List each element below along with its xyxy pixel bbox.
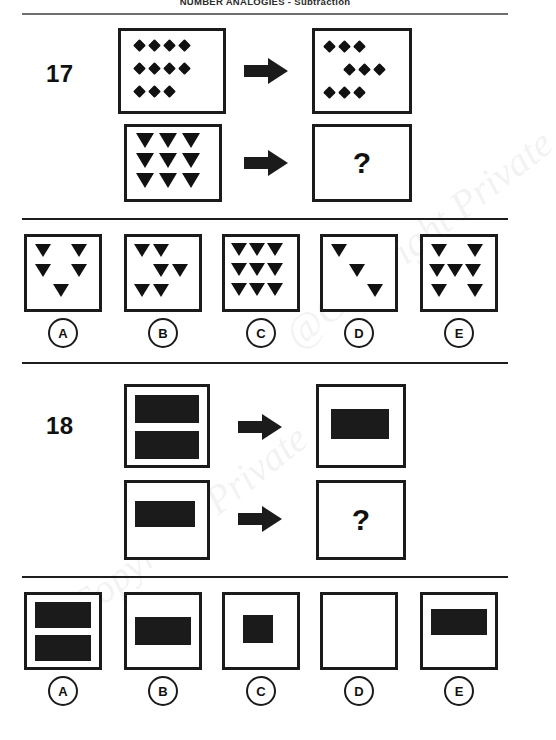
diamond-icon <box>148 39 161 52</box>
option-a-letter[interactable]: A <box>48 318 78 348</box>
diamond-icon <box>338 86 351 99</box>
shape-row <box>136 173 200 188</box>
triangle-icon <box>231 283 247 296</box>
triangle-icon <box>267 263 283 276</box>
option-c-box[interactable] <box>222 234 300 312</box>
question-mark: ? <box>315 146 409 180</box>
option-b-letter[interactable]: B <box>148 318 178 348</box>
bar-shape <box>135 617 191 645</box>
diamond-icon <box>133 39 146 52</box>
diamond-icon <box>373 63 386 76</box>
shape-row <box>35 244 87 257</box>
triangle-icon <box>182 133 200 148</box>
diamond-icon <box>178 39 191 52</box>
diamond-icon <box>163 39 176 52</box>
triangle-icon <box>431 284 447 297</box>
shape-row <box>231 263 283 276</box>
shape-row <box>134 284 169 297</box>
option-b-box[interactable] <box>124 234 202 312</box>
question-18-example-source-box <box>124 384 210 468</box>
page-title-subtitle: Subtraction <box>294 0 350 7</box>
option-e-letter[interactable]: E <box>444 318 474 348</box>
shape-row <box>367 284 383 297</box>
diamond-icon <box>338 40 351 53</box>
triangle-icon <box>153 264 169 277</box>
option-e-letter[interactable]: E <box>444 676 474 706</box>
arrow-right-icon <box>238 506 282 532</box>
option-a-box[interactable] <box>24 234 102 312</box>
option-e-box[interactable] <box>420 234 498 312</box>
triangle-icon <box>429 264 445 277</box>
diamond-icon <box>353 86 366 99</box>
option-a-letter[interactable]: A <box>48 676 78 706</box>
option-d-letter[interactable]: D <box>344 318 374 348</box>
shape-row <box>431 284 483 297</box>
triangle-icon <box>331 244 347 257</box>
option-a-box[interactable] <box>24 592 102 670</box>
bar-shape <box>135 395 199 423</box>
option-b-box[interactable] <box>124 592 202 670</box>
shape-row <box>231 283 283 296</box>
question-18-options-divider <box>22 576 508 578</box>
arrow-right-icon <box>238 414 282 440</box>
page-title: NUMBER ANALOGIES - Subtraction <box>0 0 530 7</box>
question-17-options-divider <box>22 218 508 220</box>
shape-row <box>134 244 169 257</box>
triangle-icon <box>267 283 283 296</box>
triangle-icon <box>53 284 69 297</box>
triangle-icon <box>249 263 265 276</box>
option-d-box[interactable] <box>320 234 398 312</box>
bar-shape <box>35 602 91 628</box>
option-c-letter[interactable]: C <box>246 318 276 348</box>
bar-shape <box>35 635 91 661</box>
triangle-icon <box>71 244 87 257</box>
diamond-icon <box>133 62 146 75</box>
shape-row <box>345 65 384 74</box>
diamond-icon <box>323 40 336 53</box>
bar-shape <box>331 409 389 439</box>
bar-shape <box>135 431 199 459</box>
triangle-icon <box>153 284 169 297</box>
shape-row <box>325 42 364 51</box>
option-d-box[interactable] <box>320 592 398 670</box>
triangle-icon <box>134 284 150 297</box>
option-e-box[interactable] <box>420 592 498 670</box>
diamond-icon <box>148 62 161 75</box>
shape-row <box>35 264 87 277</box>
option-c-box[interactable] <box>222 592 300 670</box>
shape-row <box>231 243 283 256</box>
diamond-icon <box>353 40 366 53</box>
triangle-icon <box>136 173 154 188</box>
triangle-icon <box>231 263 247 276</box>
bar-shape <box>135 501 195 527</box>
shape-row <box>153 264 188 277</box>
triangle-icon <box>159 173 177 188</box>
triangle-icon <box>153 244 169 257</box>
diamond-icon <box>323 86 336 99</box>
question-number: 17 <box>46 60 74 88</box>
question-17-prompt-answer-box: ? <box>312 124 412 202</box>
triangle-icon <box>182 173 200 188</box>
question-18-prompt-answer-box: ? <box>316 480 406 560</box>
triangle-icon <box>172 264 188 277</box>
page-title-separator: - <box>288 0 291 7</box>
option-c-letter[interactable]: C <box>246 676 276 706</box>
triangle-icon <box>465 264 481 277</box>
question-18-example-result-box <box>316 384 406 468</box>
diamond-icon <box>163 85 176 98</box>
shape-row <box>331 244 347 257</box>
diamond-icon <box>343 63 356 76</box>
triangle-icon <box>35 264 51 277</box>
question-18-prompt-source-box <box>124 480 210 560</box>
option-d-letter[interactable]: D <box>344 676 374 706</box>
square-shape <box>243 615 273 643</box>
option-b-letter[interactable]: B <box>148 676 178 706</box>
triangle-icon <box>136 133 154 148</box>
shape-row <box>53 284 69 297</box>
shape-row <box>136 133 200 148</box>
diamond-icon <box>133 85 146 98</box>
triangle-icon <box>249 243 265 256</box>
triangle-icon <box>159 153 177 168</box>
shape-row <box>429 264 481 277</box>
triangle-icon <box>467 244 483 257</box>
